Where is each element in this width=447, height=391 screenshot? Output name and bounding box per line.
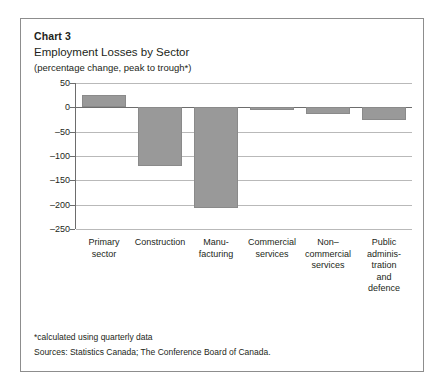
chart-subtitle: (percentage change, peak to trough*) xyxy=(34,61,404,75)
x-axis-category-labels: PrimarysectorConstructionManu-facturingC… xyxy=(76,237,412,307)
bars-series xyxy=(76,83,412,229)
y-axis-tick-label: –150 xyxy=(34,176,70,185)
footnote-sources: Sources: Statistics Canada; The Conferen… xyxy=(34,346,409,359)
chart-title: Employment Losses by Sector xyxy=(34,45,404,60)
figure-page: Chart 3 Employment Losses by Sector (per… xyxy=(0,0,447,391)
figure-frame: Chart 3 Employment Losses by Sector (per… xyxy=(20,18,424,372)
x-axis-category-label-line: services xyxy=(244,249,300,261)
y-axis-tick-label: 50 xyxy=(34,79,70,88)
x-axis-category-label-line: sector xyxy=(76,249,132,261)
footnotes-block: *calculated using quarterly data Sources… xyxy=(34,331,409,359)
x-axis-category-label-line: Primary xyxy=(76,237,132,249)
x-axis-category-label-line: tration xyxy=(356,260,412,272)
y-axis-tick-label: –250 xyxy=(34,225,70,234)
x-axis-category-label-line: adminis- xyxy=(356,249,412,261)
bar xyxy=(194,107,238,207)
x-axis-category-label-line: Manu- xyxy=(188,237,244,249)
x-axis-category-label-line: commercial xyxy=(300,249,356,261)
gridline xyxy=(76,229,412,230)
plot-area xyxy=(76,83,412,229)
x-axis-category-label: Commercialservices xyxy=(244,237,300,260)
x-axis-category-label: Primarysector xyxy=(76,237,132,260)
y-axis-tick-labels: 500–50–100–150–200–250 xyxy=(34,77,70,229)
x-axis-category-label-line: Construction xyxy=(132,237,188,249)
x-axis-category-label-line: facturing xyxy=(188,249,244,261)
y-axis-tick-mark xyxy=(70,229,75,230)
chart-plot-wrapper: 500–50–100–150–200–250 PrimarysectorCons… xyxy=(34,77,412,307)
y-axis-tick-label: –50 xyxy=(34,127,70,136)
bar xyxy=(306,107,350,113)
x-axis-category-label-line: and xyxy=(356,272,412,284)
x-axis-category-label: Publicadminis-trationanddefence xyxy=(356,237,412,295)
chart-header: Chart 3 Employment Losses by Sector (per… xyxy=(34,29,404,75)
y-axis-tick-label: –200 xyxy=(34,200,70,209)
bar xyxy=(250,107,294,110)
x-axis-category-label-line: Public xyxy=(356,237,412,249)
bar xyxy=(138,107,182,165)
chart-number: Chart 3 xyxy=(34,29,404,43)
footnote-asterisk: *calculated using quarterly data xyxy=(34,331,409,344)
bar xyxy=(362,107,406,120)
x-axis-category-label: Construction xyxy=(132,237,188,249)
x-axis-category-label-line: defence xyxy=(356,283,412,295)
x-axis-category-label: Manu-facturing xyxy=(188,237,244,260)
x-axis-category-label-line: Commercial xyxy=(244,237,300,249)
x-axis-category-label-line: services xyxy=(300,260,356,272)
x-axis-category-label-line: Non– xyxy=(300,237,356,249)
y-axis-tick-label: 0 xyxy=(34,103,70,112)
bar xyxy=(82,95,126,108)
x-axis-category-label: Non–commercialservices xyxy=(300,237,356,272)
y-axis-tick-label: –100 xyxy=(34,152,70,161)
